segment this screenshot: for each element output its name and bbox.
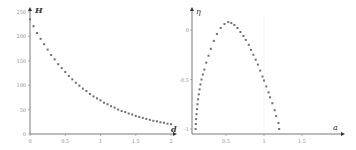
left-data-point <box>110 105 112 107</box>
left-data-point <box>43 43 45 45</box>
left-data-point <box>85 90 87 92</box>
left-data-point <box>29 18 31 20</box>
left-y-axis-label: H <box>34 5 43 15</box>
right-x-ticks: 0.511.5 <box>222 134 306 144</box>
left-data-point <box>170 123 172 125</box>
left-chart: H d 050100150200250 00.511.52 <box>0 0 180 150</box>
left-data-point <box>89 93 91 95</box>
right-data-point <box>274 109 276 111</box>
left-data-point <box>156 120 158 122</box>
right-x-axis-arrow <box>341 132 345 136</box>
left-data-point <box>75 82 77 84</box>
left-data-point <box>128 113 130 115</box>
left-data-point <box>71 78 73 80</box>
left-data-point <box>135 115 137 117</box>
right-data-point <box>223 23 225 25</box>
left-data-point <box>50 54 52 56</box>
left-y-axis-arrow <box>28 7 32 11</box>
right-data-point <box>257 64 259 66</box>
right-data-point <box>213 40 215 42</box>
right-data-point <box>233 24 235 26</box>
left-x-tick-label: 2 <box>169 138 172 144</box>
right-data-point <box>261 76 263 78</box>
left-y-tick-label: 200 <box>16 33 26 39</box>
left-x-tick-label: 0.5 <box>61 138 69 144</box>
left-x-tick-label: 1 <box>99 138 102 144</box>
left-y-tick-label: 100 <box>16 82 26 88</box>
left-data-point <box>103 102 105 104</box>
right-data-point <box>195 118 197 120</box>
left-x-tick-label: 0 <box>28 138 31 144</box>
left-data-point <box>107 103 109 105</box>
left-data-point <box>145 118 147 120</box>
right-data-point <box>202 74 204 76</box>
left-data-points <box>29 18 172 125</box>
left-data-point <box>138 116 140 118</box>
left-y-tick-label: 0 <box>23 131 26 137</box>
right-data-point <box>196 113 198 115</box>
right-data-point <box>230 22 232 24</box>
right-data-point <box>263 79 265 81</box>
right-data-point <box>197 103 199 105</box>
left-data-point <box>57 63 59 65</box>
left-data-point <box>68 75 70 77</box>
left-data-point <box>131 113 133 115</box>
right-data-point <box>271 102 273 104</box>
left-data-point <box>92 95 94 97</box>
left-data-point <box>159 121 161 123</box>
right-y-ticks: -1-0.50 <box>180 27 192 132</box>
left-data-point <box>121 110 123 112</box>
left-data-point <box>78 85 80 87</box>
left-data-point <box>114 107 116 109</box>
right-data-point <box>250 49 252 51</box>
left-y-tick-label: 150 <box>16 58 26 64</box>
left-y-tick-label: 50 <box>20 107 26 113</box>
right-x-tick-label: 0.5 <box>222 138 230 144</box>
right-data-point <box>259 70 261 72</box>
left-chart-panel: H d 050100150200250 00.511.52 <box>0 0 180 150</box>
left-data-point <box>54 58 56 60</box>
right-data-point <box>210 48 212 50</box>
left-data-point <box>152 120 154 122</box>
right-data-point <box>268 91 270 93</box>
right-data-point <box>199 88 201 90</box>
right-data-point <box>236 27 238 29</box>
left-y-tick-label: 250 <box>16 9 26 15</box>
left-data-point <box>61 67 63 69</box>
right-y-tick-label: -1 <box>184 126 189 132</box>
left-x-axis-label: d <box>171 124 177 134</box>
right-data-point <box>242 35 244 37</box>
right-x-tick-label: 1 <box>262 138 265 144</box>
right-data-point <box>275 115 277 117</box>
left-data-point <box>96 97 98 99</box>
left-y-ticks: 050100150200250 <box>16 9 30 137</box>
right-data-point <box>227 21 229 23</box>
right-data-point <box>255 59 257 61</box>
right-data-point <box>208 55 210 57</box>
left-data-point <box>149 119 151 121</box>
left-data-point <box>100 99 102 101</box>
right-data-point <box>239 31 241 33</box>
left-data-point <box>117 109 119 111</box>
left-data-point <box>40 38 42 40</box>
right-data-point <box>196 108 198 110</box>
left-data-point <box>36 32 38 34</box>
right-chart: η a -1-0.50 0.511.5 <box>180 0 356 150</box>
left-x-ticks: 00.511.52 <box>28 134 172 144</box>
left-data-point <box>124 111 126 113</box>
right-data-point <box>195 123 197 125</box>
right-y-axis-label: η <box>196 7 201 16</box>
right-data-point <box>252 54 254 56</box>
right-y-tick-label: -0.5 <box>180 77 189 83</box>
right-chart-panel: η a -1-0.50 0.511.5 <box>180 0 356 150</box>
right-data-point <box>197 98 199 100</box>
right-data-point <box>278 128 280 130</box>
right-data-point <box>216 33 218 35</box>
right-x-axis-label: a <box>333 123 338 132</box>
right-data-point <box>269 96 271 98</box>
right-y-tick-label: 0 <box>186 27 189 33</box>
left-data-point <box>82 88 84 90</box>
right-data-point <box>265 85 267 87</box>
right-x-tick-label: 1.5 <box>298 138 306 144</box>
right-data-point <box>199 83 201 85</box>
